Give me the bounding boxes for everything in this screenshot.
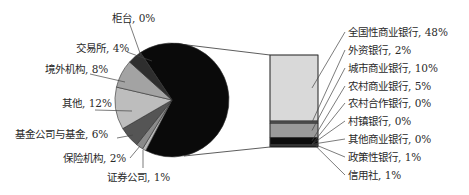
bar-label: 政策性银行, 1%: [348, 151, 421, 163]
pie: [115, 43, 229, 157]
bar-label: 村镇银行, 0%: [348, 115, 411, 127]
bar-segment: [270, 121, 318, 124]
pie-label: 其他, 12%: [62, 97, 112, 109]
bar-segment: [270, 124, 318, 138]
bar-label: 城市商业银行, 10%: [348, 62, 438, 74]
bar-label: 外资银行, 2%: [348, 44, 411, 56]
bar-label: 全国性商业银行, 48%: [348, 26, 448, 38]
pie-label: 境外机构, 8%: [45, 63, 108, 75]
bar-label: 农村合作银行, 0%: [348, 97, 431, 109]
pie-label: 柜台, 0%: [112, 12, 155, 24]
bar-label: 其他商业银行, 0%: [348, 133, 431, 145]
pie-label: 基金公司与基金, 6%: [15, 128, 108, 140]
bar-label: 农村商业银行, 5%: [348, 80, 431, 92]
bar-segment: [270, 55, 318, 121]
pie-label: 交易所, 4%: [76, 42, 129, 54]
bar-label: 信用社, 1%: [348, 169, 401, 181]
bar-segment: [270, 137, 318, 144]
pie-label: 证券公司, 1%: [107, 171, 170, 183]
pie-label: 保险机构, 2%: [63, 152, 126, 164]
stacked-bar: [270, 55, 318, 147]
